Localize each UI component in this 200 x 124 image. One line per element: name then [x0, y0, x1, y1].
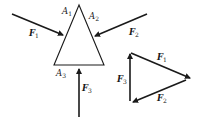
force-label-f3: F3: [81, 83, 92, 94]
vertex-label-a3: A3: [55, 68, 66, 79]
vertex-label-a1: A1: [61, 6, 72, 17]
force-triangle-label-f1: F1: [156, 52, 167, 63]
vertex-label-a2: A2: [88, 11, 99, 22]
force-diagram: A1 A2 A3 F1 F2 F3 F1 F2 F3: [0, 0, 200, 124]
force-label-f2: F2: [128, 27, 139, 38]
force-triangle-label-f3: F3: [116, 74, 127, 85]
force-label-f1: F1: [28, 28, 39, 39]
force-triangle-label-f2: F2: [156, 93, 167, 104]
force-arrow-f2: [95, 14, 147, 36]
